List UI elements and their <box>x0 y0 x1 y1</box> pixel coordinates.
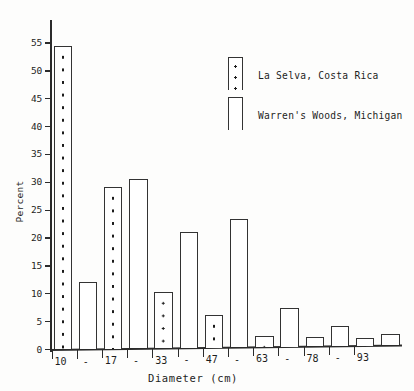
bar-63-78-warrens-woods <box>280 308 299 347</box>
x-tick <box>77 350 78 359</box>
x-tick <box>253 347 254 356</box>
x-tick-label: 33 <box>155 355 167 366</box>
y-tick <box>45 126 51 127</box>
bar-47-63-la-selva <box>205 315 224 347</box>
x-tick-label: 17 <box>105 355 117 366</box>
y-tick <box>45 182 51 183</box>
y-tick <box>45 154 51 155</box>
bar-78-93-warrens-woods <box>331 326 350 346</box>
x-tick-label: - <box>133 355 139 366</box>
y-tick-label: 25 <box>16 204 42 215</box>
x-tick-label: 47 <box>206 354 218 365</box>
y-tick-label: 35 <box>16 148 42 159</box>
y-tick-label: 45 <box>16 93 42 104</box>
x-tick <box>152 349 153 358</box>
x-tick-label: - <box>83 356 89 367</box>
chart-figure: Percent Diameter (cm) 051015202530354045… <box>0 0 414 391</box>
y-tick <box>45 293 51 294</box>
y-tick <box>45 265 51 266</box>
x-tick-label: 10 <box>54 356 66 367</box>
y-tick <box>45 237 51 238</box>
bar-47-63-warrens-woods <box>230 219 249 347</box>
legend-label-warrens-woods: Warren's Woods, Michigan <box>258 110 403 121</box>
legend-swatch-la-selva <box>228 57 243 90</box>
bar-17-33-warrens-woods <box>129 179 148 349</box>
y-tick <box>45 98 51 99</box>
x-tick-label: 93 <box>357 352 369 363</box>
legend-label-la-selva: La Selva, Costa Rica <box>258 70 379 81</box>
x-tick <box>228 348 229 357</box>
x-tick <box>354 346 355 355</box>
bar-33-47-la-selva <box>154 292 173 348</box>
y-tick-label: 20 <box>16 232 42 243</box>
x-tick <box>329 346 330 355</box>
y-tick-label: 5 <box>16 316 42 327</box>
y-tick-label: 55 <box>16 37 42 48</box>
legend-swatch-warrens-woods <box>228 97 243 130</box>
x-tick <box>127 349 128 358</box>
y-tick-label: 15 <box>16 260 42 271</box>
y-tick-label: 50 <box>16 65 42 76</box>
x-axis-title: Diameter (cm) <box>148 372 238 384</box>
y-tick <box>45 70 51 71</box>
bar-78-93-la-selva <box>306 337 325 346</box>
y-tick-label: 30 <box>16 176 42 187</box>
x-tick <box>52 350 53 359</box>
y-tick <box>45 321 51 322</box>
bar-93+-la-selva <box>356 338 375 346</box>
x-tick <box>203 348 204 357</box>
x-tick-label: - <box>183 354 189 365</box>
bar-33-47-warrens-woods <box>180 232 199 348</box>
x-tick <box>304 347 305 356</box>
bar-10-17-la-selva <box>54 46 73 350</box>
y-tick-label: 40 <box>16 121 42 132</box>
bar-93+-warrens-woods <box>381 334 400 345</box>
bar-10-17-warrens-woods <box>79 282 98 349</box>
y-tick <box>45 210 51 211</box>
x-tick <box>278 347 279 356</box>
bar-63-78-la-selva <box>255 336 274 347</box>
x-tick-label: 78 <box>306 353 318 364</box>
x-tick-label: - <box>234 354 240 365</box>
y-tick-label: 10 <box>16 288 42 299</box>
y-tick <box>45 42 51 43</box>
y-tick <box>45 349 51 350</box>
x-tick-label: - <box>335 352 341 363</box>
y-tick-label: 0 <box>16 344 42 355</box>
x-tick <box>178 348 179 357</box>
plot-area: Percent Diameter (cm) 051015202530354045… <box>0 0 414 391</box>
x-tick-label: - <box>284 353 290 364</box>
x-tick <box>102 349 103 358</box>
bar-17-33-la-selva <box>104 187 123 349</box>
x-tick-label: 63 <box>256 353 268 364</box>
